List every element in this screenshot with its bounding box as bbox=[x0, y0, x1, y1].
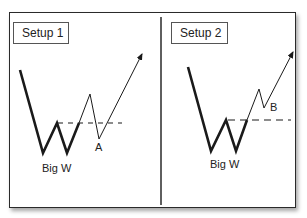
big-w-line-2 bbox=[188, 67, 247, 151]
setup-2-title: Setup 2 bbox=[180, 26, 221, 40]
setup-1-point-label: A bbox=[95, 141, 102, 153]
breakout-line-1 bbox=[79, 54, 142, 139]
setup-1-pattern-label: Big W bbox=[42, 162, 71, 174]
setup-2-pattern-label: Big W bbox=[210, 158, 239, 170]
setup-1-title-box: Setup 1 bbox=[13, 22, 69, 44]
setup-2-point-label: B bbox=[270, 101, 277, 113]
big-w-line-1 bbox=[20, 70, 79, 153]
setup-2-title-box: Setup 2 bbox=[171, 22, 228, 44]
setup-1-title: Setup 1 bbox=[22, 26, 63, 40]
setup-1-chart bbox=[20, 54, 142, 153]
